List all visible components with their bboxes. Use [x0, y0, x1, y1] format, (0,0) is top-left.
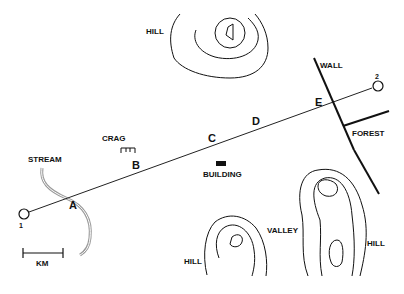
end-point	[373, 81, 383, 91]
hill-north-contours	[171, 14, 268, 78]
crag-label: CRAG	[102, 135, 126, 143]
forest-wall-extension	[354, 150, 379, 194]
forest-label: FOREST	[352, 130, 384, 138]
start-point	[19, 209, 29, 219]
valley-label: VALLEY	[267, 227, 298, 235]
map: HILL CRAG STREAM BUILDING WALL FOREST VA…	[0, 0, 404, 294]
scale-bar-label: KM	[36, 260, 48, 268]
scale-bar	[23, 248, 63, 258]
map-drawing	[0, 0, 404, 294]
checkpoint-c-label: C	[208, 133, 216, 144]
crag-symbol	[121, 148, 135, 153]
start-point-label: 1	[19, 222, 23, 229]
hill-southwest-label: HILL	[184, 258, 202, 266]
checkpoint-b-label: B	[132, 160, 140, 171]
hill-southeast-contours	[300, 169, 366, 276]
wall-label: WALL	[320, 62, 343, 70]
checkpoint-d-label: D	[252, 116, 260, 127]
hill-north-label: HILL	[146, 28, 164, 36]
stream-label: STREAM	[28, 156, 62, 164]
hill-southeast-label: HILL	[367, 240, 385, 248]
end-point-label: 2	[375, 73, 379, 80]
hill-southwest-contours	[205, 216, 267, 276]
checkpoint-a-label: A	[69, 200, 77, 211]
building-label: BUILDING	[203, 171, 242, 179]
building-symbol	[216, 161, 226, 166]
stream	[42, 168, 91, 255]
forest-edge	[343, 111, 389, 126]
checkpoint-e-label: E	[315, 97, 322, 108]
